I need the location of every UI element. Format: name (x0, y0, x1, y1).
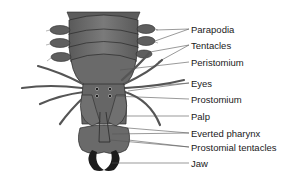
label-prostomial-tentacles: Prostomial tentacles (191, 142, 277, 153)
peristomium-shape (71, 54, 136, 86)
diagram-canvas: Parapodia Tentacles Peristomium Eyes Pro… (0, 0, 298, 185)
label-everted-pharynx: Everted pharynx (191, 128, 260, 139)
label-palp: Palp (191, 111, 210, 122)
worm-illustration (0, 0, 298, 185)
label-parapodia: Parapodia (191, 24, 234, 35)
label-prostomium: Prostomium (191, 94, 242, 105)
pharynx-shape (78, 125, 129, 154)
label-jaw: Jaw (191, 158, 208, 169)
label-tentacles: Tentacles (191, 40, 231, 51)
label-peristomium: Peristomium (191, 57, 244, 68)
jaw-shapes (88, 150, 119, 171)
label-eyes: Eyes (191, 78, 212, 89)
